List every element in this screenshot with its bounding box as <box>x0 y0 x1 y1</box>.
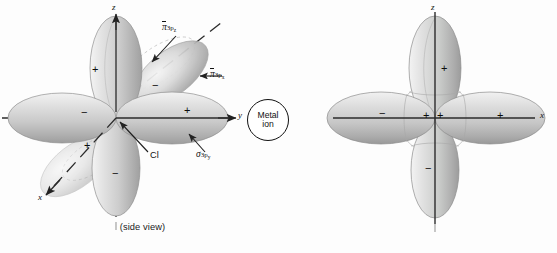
axis-label-x: x <box>38 192 42 202</box>
axis-label-z: z <box>431 2 435 12</box>
caption-side-view: (side view) <box>0 222 285 232</box>
axis-label-x: x <box>540 110 544 120</box>
panel-end-on-view: z x + − + − + + (looking down the M−L ax… <box>285 0 557 253</box>
sign-lobe-y-right: + <box>184 105 190 116</box>
overbar-pi-3px <box>210 68 214 69</box>
sign-lobe-center-right: + <box>437 110 443 121</box>
side-view-orbital-diagram <box>0 0 285 253</box>
sign-lobe-x-near: + <box>84 140 90 151</box>
metal-ion-circle: Metal ion <box>247 99 289 141</box>
orbital-label-pi-3px: π3px <box>210 63 224 81</box>
sign-lobe-z-up: + <box>92 64 98 75</box>
axis-label-z: z <box>112 2 116 12</box>
sign-lobe-x-far: − <box>152 80 158 91</box>
metal-ion-label-line2: ion <box>262 120 273 129</box>
sign-lobe-y-left: − <box>81 107 87 118</box>
end-on-orbital-diagram <box>285 0 557 253</box>
panel-side-view: z y x π3pz π3px σ3py Cl Metal ion + − + … <box>0 0 285 253</box>
sign-lobe-center-left: + <box>423 110 429 121</box>
orbital-label-pi-3pz: π3pz <box>162 16 176 34</box>
sign-lobe-z-down: − <box>425 163 431 174</box>
atom-label-cl: Cl <box>150 150 159 160</box>
sign-lobe-z-down: − <box>112 168 118 179</box>
axis-label-y: y <box>238 110 242 120</box>
overbar-pi-3pz <box>162 21 166 22</box>
sign-lobe-x-left: − <box>379 108 385 119</box>
orbital-label-sigma-3py: σ3py <box>196 143 210 161</box>
sign-lobe-z-up: + <box>441 63 447 74</box>
sign-lobe-x-right: + <box>497 110 503 121</box>
end-on-geometry <box>327 12 545 232</box>
